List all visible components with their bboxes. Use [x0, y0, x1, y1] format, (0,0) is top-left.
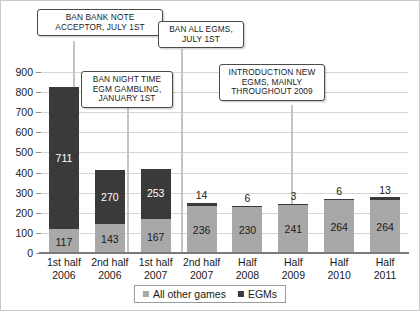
bar-value-label: 264: [370, 222, 400, 233]
legend-label: EGMs: [248, 288, 277, 300]
bar-segment-egms[interactable]: 270: [95, 170, 125, 224]
bar-value-label: 241: [278, 224, 308, 235]
bar-value-label: 711: [49, 153, 79, 164]
bar-segment-all-other-games[interactable]: 167: [141, 219, 171, 253]
legend-swatch: [143, 291, 149, 297]
bar-segment-all-other-games[interactable]: 230: [232, 207, 262, 253]
bar-value-label: 117: [49, 237, 79, 248]
bar-value-label: 6: [324, 186, 354, 197]
y-axis-tick-label: 900: [0, 66, 33, 78]
bar-value-label: 13: [370, 185, 400, 196]
chart-container: 9008007006005004003002001000 11771114327…: [0, 0, 420, 311]
bar-segment-all-other-games[interactable]: 117: [49, 229, 79, 253]
bar-segment-egms[interactable]: [370, 197, 400, 200]
y-axis-tick-label: 700: [0, 106, 33, 118]
bar-segment-egms[interactable]: 711: [49, 87, 79, 230]
annotation-callout-introduction-new-egms[interactable]: INTRODUCTION NEWEGMS, MAINLYTHROUGHOUT 2…: [219, 64, 325, 101]
y-axis-tick-label: 500: [0, 146, 33, 158]
y-axis-tick-label: 0: [0, 247, 33, 259]
bar-value-label: 253: [141, 188, 171, 199]
x-axis-label-line: 2011: [353, 269, 417, 282]
bar-value-label: 14: [187, 190, 217, 201]
bar-value-label: 167: [141, 232, 171, 243]
bar-group[interactable]: 26413: [370, 72, 400, 253]
x-axis-label: Half2011: [353, 256, 417, 281]
legend-label: All other games: [153, 288, 226, 300]
legend-swatch: [238, 291, 244, 297]
bar-segment-all-other-games[interactable]: 264: [370, 200, 400, 253]
bar-segment-all-other-games[interactable]: 241: [278, 205, 308, 253]
bar-value-label: 264: [324, 222, 354, 233]
bar-value-label: 143: [95, 234, 125, 245]
bar-value-label: 230: [232, 225, 262, 236]
bar-value-label: 270: [95, 192, 125, 203]
annotation-callout-ban-night-time-egm-gambling[interactable]: BAN NIGHT TIMEEGM GAMBLING,JANUARY 1ST: [81, 71, 173, 108]
y-axis-tick-label: 100: [0, 227, 33, 239]
y-axis-tick-label: 400: [0, 167, 33, 179]
annotation-callout-ban-bank-note-acceptor[interactable]: BAN BANK NOTEACCEPTOR, JULY 1ST: [37, 9, 163, 36]
y-axis-tick-label: 200: [0, 207, 33, 219]
bar-segment-all-other-games[interactable]: 143: [95, 224, 125, 253]
bar-segment-egms[interactable]: [187, 203, 217, 206]
legend-item[interactable]: All other games: [143, 288, 226, 300]
annotation-line: JULY 1ST: [164, 35, 238, 45]
bar-segment-egms[interactable]: [278, 204, 308, 205]
bar-group[interactable]: 117711: [49, 72, 79, 253]
annotation-line: ACCEPTOR, JULY 1ST: [43, 23, 157, 33]
x-axis-label-line: Half: [353, 256, 417, 269]
y-axis-tick-label: 600: [0, 126, 33, 138]
bar-value-label: 6: [232, 193, 262, 204]
annotation-line: JANUARY 1ST: [87, 94, 167, 104]
bar-segment-all-other-games[interactable]: 236: [187, 206, 217, 253]
chart-legend: All other gamesEGMs: [134, 285, 286, 303]
bar-group[interactable]: 23614: [187, 72, 217, 253]
legend-item[interactable]: EGMs: [238, 288, 277, 300]
bar-segment-all-other-games[interactable]: 264: [324, 200, 354, 253]
x-axis-line: [39, 252, 409, 254]
bar-group[interactable]: 2646: [324, 72, 354, 253]
y-axis-tick-label: 800: [0, 86, 33, 98]
annotation-line: THROUGHOUT 2009: [225, 87, 319, 97]
bar-segment-egms[interactable]: [324, 199, 354, 200]
bar-value-label: 3: [278, 191, 308, 202]
bar-value-label: 236: [187, 225, 217, 236]
annotation-callout-ban-all-egms[interactable]: BAN ALL EGMS,JULY 1ST: [158, 21, 244, 48]
y-axis-tick-label: 300: [0, 187, 33, 199]
bar-segment-egms[interactable]: [232, 206, 262, 207]
bar-segment-egms[interactable]: 253: [141, 169, 171, 220]
